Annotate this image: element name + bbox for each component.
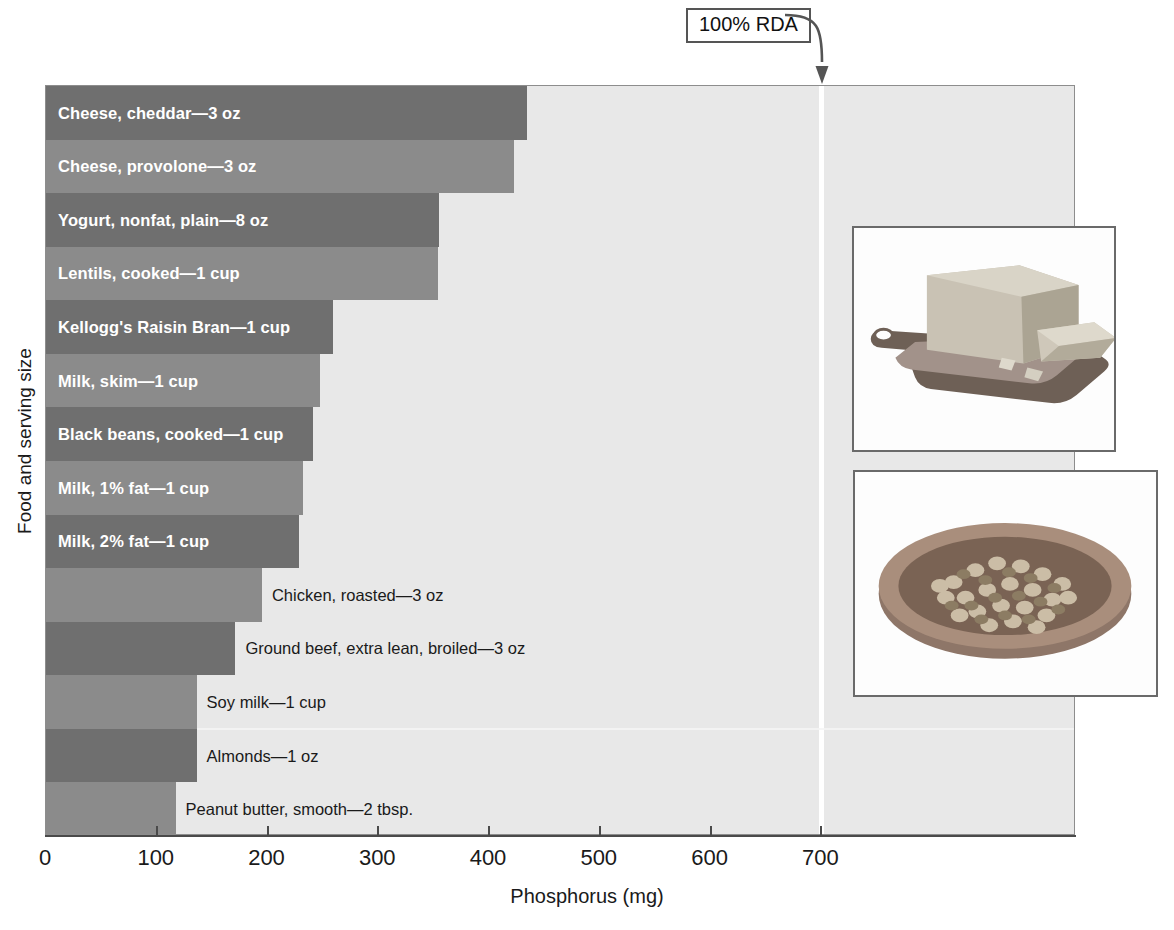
x-tick <box>267 826 269 835</box>
bars-container: Cheese, cheddar—3 ozCheese, provolone—3 … <box>46 86 1074 834</box>
bar-12 <box>46 675 197 729</box>
bar-row: Cheese, cheddar—3 oz <box>46 86 1075 140</box>
bar-11 <box>46 622 235 676</box>
bar-row: Peanut butter, smooth—2 tbsp. <box>46 782 1075 835</box>
x-tick-label: 200 <box>248 845 285 871</box>
plot-area: Cheese, cheddar—3 ozCheese, provolone—3 … <box>45 85 1075 835</box>
x-tick-label: 100 <box>137 845 174 871</box>
bar-label: Lentils, cooked—1 cup <box>58 264 240 283</box>
x-tick <box>377 826 379 835</box>
x-tick-label: 0 <box>39 845 51 871</box>
bar-13 <box>46 729 197 783</box>
x-axis: 0100200300400500600700 <box>45 835 1076 837</box>
x-tick-label: 300 <box>359 845 396 871</box>
x-tick-label: 600 <box>691 845 728 871</box>
bar-label: Milk, 1% fat—1 cup <box>58 478 209 497</box>
bar-label: Almonds—1 oz <box>207 746 319 765</box>
x-axis-title: Phosphorus (mg) <box>0 885 1174 908</box>
bar-label: Peanut butter, smooth—2 tbsp. <box>186 800 413 819</box>
bar-label: Cheese, provolone—3 oz <box>58 157 256 176</box>
beans-bowl-photo <box>853 470 1158 697</box>
x-tick <box>820 826 822 835</box>
bar-label: Black beans, cooked—1 cup <box>58 425 283 444</box>
bar-label: Milk, skim—1 cup <box>58 371 198 390</box>
bar-label: Cheese, cheddar—3 oz <box>58 103 241 122</box>
x-tick <box>488 826 490 835</box>
x-tick <box>599 826 601 835</box>
bar-label: Yogurt, nonfat, plain—8 oz <box>58 210 268 229</box>
x-tick <box>710 826 712 835</box>
chart-root: 100% RDA Cheese, cheddar—3 ozCheese, pro… <box>0 0 1174 930</box>
bar-label: Kellogg's Raisin Bran—1 cup <box>58 318 290 337</box>
bar-label: Soy milk—1 cup <box>207 693 326 712</box>
cheddar-cheese-photo <box>852 226 1116 452</box>
bar-row: Cheese, provolone—3 oz <box>46 140 1075 194</box>
x-tick-label: 700 <box>802 845 839 871</box>
bar-label: Chicken, roasted—3 oz <box>272 585 444 604</box>
bar-row: Almonds—1 oz <box>46 729 1075 783</box>
bar-label: Milk, 2% fat—1 cup <box>58 532 209 551</box>
rda-arrow-icon <box>780 10 850 90</box>
bar-label: Ground beef, extra lean, broiled—3 oz <box>245 639 525 658</box>
x-tick-label: 500 <box>580 845 617 871</box>
y-axis-title: Food and serving size <box>14 331 36 551</box>
bar-10 <box>46 568 262 622</box>
x-tick-label: 400 <box>470 845 507 871</box>
x-tick <box>156 826 158 835</box>
